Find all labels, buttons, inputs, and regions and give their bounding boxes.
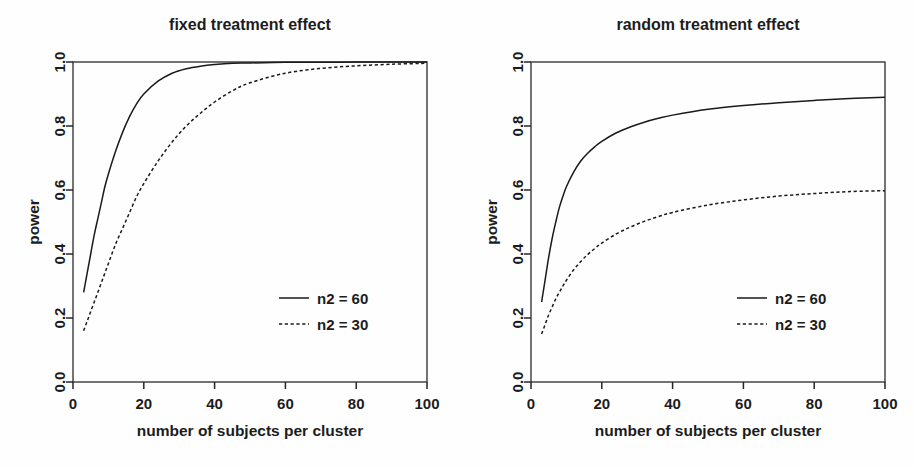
- y-tick-label: 1.0: [51, 52, 68, 73]
- x-axis: 020406080100: [527, 382, 898, 412]
- y-axis-title: power: [483, 199, 500, 245]
- series-line-1: [84, 62, 427, 292]
- y-tick-label: 0.8: [509, 116, 526, 137]
- x-tick-label: 60: [277, 395, 294, 412]
- y-tick-label: 0.4: [509, 243, 526, 265]
- series-line-2: [542, 191, 885, 334]
- series-line-2: [84, 63, 427, 331]
- y-tick-label: 0.6: [51, 180, 68, 201]
- y-tick-label: 0.0: [509, 372, 526, 393]
- y-tick-label: 1.0: [509, 52, 526, 73]
- x-axis-title: number of subjects per cluster: [137, 422, 364, 439]
- x-tick-label: 40: [664, 395, 681, 412]
- x-tick-label: 0: [527, 395, 535, 412]
- series-line-1: [542, 97, 885, 302]
- legend: n2 = 60n2 = 30: [279, 290, 368, 333]
- chart-title: random treatment effect: [616, 16, 800, 33]
- y-tick-label: 0.2: [509, 308, 526, 329]
- y-tick-label: 0.4: [51, 243, 68, 265]
- figure-container: fixed treatment effect020406080100number…: [0, 0, 916, 468]
- plot-svg: random treatment effect020406080100numbe…: [458, 0, 916, 468]
- y-axis: 0.00.20.40.60.81.0: [51, 52, 74, 393]
- x-tick-label: 40: [206, 395, 223, 412]
- y-tick-label: 0.6: [509, 180, 526, 201]
- x-tick-label: 20: [135, 395, 152, 412]
- legend-label-2: n2 = 30: [775, 316, 826, 333]
- curves: [542, 97, 885, 334]
- legend-label-1: n2 = 60: [317, 290, 368, 307]
- y-axis: 0.00.20.40.60.81.0: [509, 52, 532, 393]
- x-tick-label: 0: [69, 395, 77, 412]
- curves: [84, 62, 427, 331]
- panel-fixed-treatment-effect: fixed treatment effect020406080100number…: [0, 0, 458, 468]
- y-tick-label: 0.0: [51, 372, 68, 393]
- legend-label-2: n2 = 30: [317, 316, 368, 333]
- x-axis-title: number of subjects per cluster: [595, 422, 822, 439]
- panel-random-treatment-effect: random treatment effect020406080100numbe…: [458, 0, 916, 468]
- y-tick-label: 0.8: [51, 116, 68, 137]
- x-tick-label: 60: [735, 395, 752, 412]
- legend: n2 = 60n2 = 30: [737, 290, 826, 333]
- x-tick-label: 100: [414, 395, 439, 412]
- chart-title: fixed treatment effect: [169, 16, 331, 33]
- x-tick-label: 80: [806, 395, 823, 412]
- x-tick-label: 80: [348, 395, 365, 412]
- legend-label-1: n2 = 60: [775, 290, 826, 307]
- y-axis-title: power: [25, 199, 42, 245]
- x-tick-label: 20: [593, 395, 610, 412]
- x-tick-label: 100: [872, 395, 897, 412]
- y-tick-label: 0.2: [51, 308, 68, 329]
- x-axis: 020406080100: [69, 382, 440, 412]
- plot-svg: fixed treatment effect020406080100number…: [0, 0, 458, 468]
